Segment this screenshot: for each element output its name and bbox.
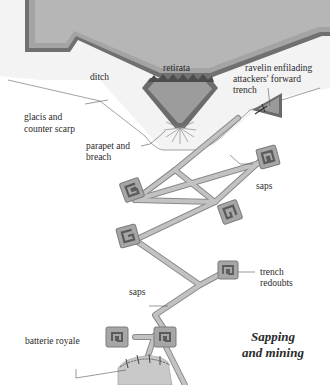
label-parapet-line2: breach bbox=[86, 152, 111, 162]
label-trench-redoubts-line2: redoubts bbox=[260, 278, 293, 288]
label-parapet-line1: parapet and bbox=[86, 141, 130, 151]
label-ravelin-line3: trench bbox=[233, 85, 257, 95]
batterie-royale bbox=[118, 354, 172, 385]
label-glacis-line1: glacis and bbox=[24, 112, 62, 122]
label-glacis-line2: counter scarp bbox=[24, 124, 75, 134]
redoubt bbox=[154, 327, 176, 347]
label-retirata: retirata bbox=[163, 63, 190, 73]
redoubt bbox=[116, 224, 140, 248]
label-trench-redoubts-line1: trench bbox=[260, 267, 284, 277]
label-ravelin-line2: attackers' forward bbox=[233, 74, 301, 84]
sapping-and-mining-diagram: retirata ditch ravelin enfilading attack… bbox=[0, 0, 330, 385]
diagram-title-line2: and mining bbox=[228, 346, 318, 360]
redoubt bbox=[218, 261, 238, 279]
label-ditch: ditch bbox=[90, 72, 109, 82]
redoubt bbox=[217, 199, 243, 225]
label-saps-lower: saps bbox=[129, 287, 145, 297]
label-ravelin-line1: ravelin enfilading bbox=[245, 63, 312, 73]
diagram-title-line1: Sapping bbox=[228, 330, 318, 344]
label-batterie-royale: batterie royale bbox=[25, 336, 80, 346]
label-saps-upper: saps bbox=[256, 181, 272, 191]
diagram-graphic bbox=[0, 0, 330, 385]
redoubt bbox=[256, 145, 280, 169]
redoubt bbox=[106, 327, 128, 347]
